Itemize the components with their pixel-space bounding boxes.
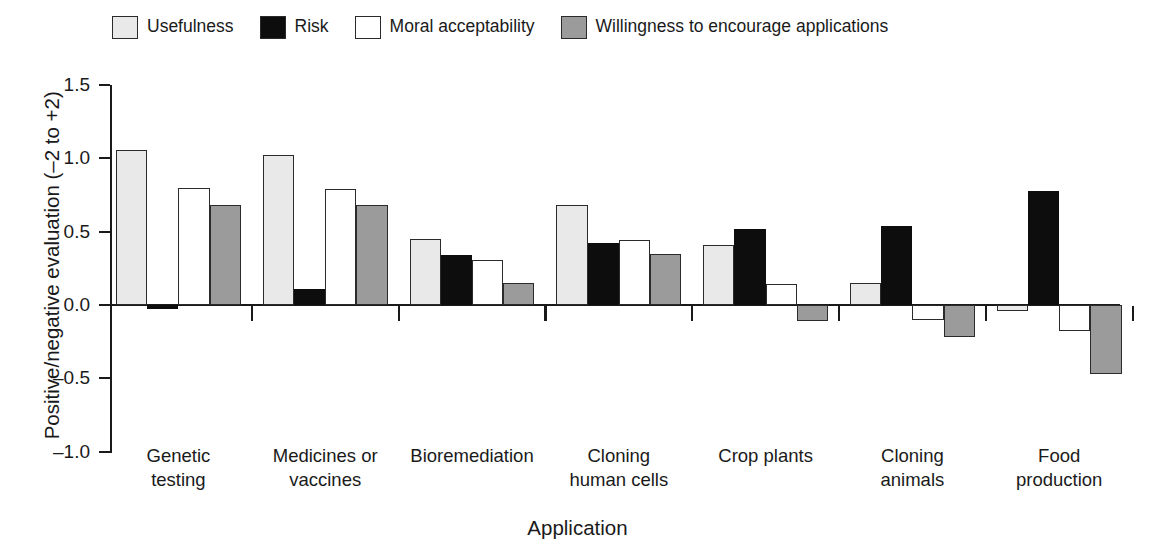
category-label-line: Food bbox=[974, 444, 1144, 468]
category-label-line: production bbox=[974, 468, 1144, 492]
y-axis-tick bbox=[99, 377, 110, 379]
bar[interactable] bbox=[147, 305, 178, 309]
bar[interactable] bbox=[178, 188, 209, 305]
x-axis-category-label: Cloninghuman cells bbox=[534, 444, 704, 491]
x-axis-category-label: Cloninganimals bbox=[827, 444, 997, 491]
bar[interactable] bbox=[556, 205, 587, 305]
plot-area: 1.51.00.50.0–0.5–1.0 GenetictestingMedic… bbox=[0, 0, 1155, 555]
bar[interactable] bbox=[116, 150, 147, 305]
x-axis-category-label: Medicines orvaccines bbox=[240, 444, 410, 491]
bar[interactable] bbox=[294, 289, 325, 305]
category-label-line: Bioremediation bbox=[387, 444, 557, 468]
bar[interactable] bbox=[356, 205, 387, 305]
category-label-line: human cells bbox=[534, 468, 704, 492]
y-axis-tick bbox=[99, 157, 110, 159]
category-label-line: testing bbox=[93, 468, 263, 492]
y-axis-title: Positive/negative evaluation (–2 to +2) bbox=[42, 65, 63, 465]
bar[interactable] bbox=[325, 189, 356, 305]
category-label-line: Crop plants bbox=[681, 444, 851, 468]
y-axis-tick bbox=[99, 84, 110, 86]
bar[interactable] bbox=[997, 305, 1028, 311]
y-axis-tick bbox=[99, 231, 110, 233]
bar[interactable] bbox=[797, 305, 828, 321]
x-axis-tick bbox=[985, 306, 987, 321]
x-axis-tick bbox=[251, 306, 253, 321]
x-axis-tick bbox=[1132, 306, 1134, 321]
bar[interactable] bbox=[703, 245, 734, 305]
bar[interactable] bbox=[650, 254, 681, 305]
x-axis-category-label: Crop plants bbox=[681, 444, 851, 468]
x-axis-title: Application bbox=[0, 518, 1155, 539]
x-axis-tick bbox=[398, 306, 400, 321]
bar[interactable] bbox=[1059, 305, 1090, 331]
bar[interactable] bbox=[441, 255, 472, 305]
y-axis-line bbox=[110, 85, 112, 453]
x-axis-category-label: Bioremediation bbox=[387, 444, 557, 468]
x-axis-category-label: Foodproduction bbox=[974, 444, 1144, 491]
y-axis-tick bbox=[99, 304, 110, 306]
bar[interactable] bbox=[503, 283, 534, 305]
category-label-line: vaccines bbox=[240, 468, 410, 492]
bar[interactable] bbox=[410, 239, 441, 305]
category-label-line: Cloning bbox=[534, 444, 704, 468]
category-label-line: Medicines or bbox=[240, 444, 410, 468]
category-label-line: Cloning bbox=[827, 444, 997, 468]
category-label-line: animals bbox=[827, 468, 997, 492]
bar[interactable] bbox=[588, 243, 619, 305]
x-axis-tick bbox=[838, 306, 840, 321]
bar[interactable] bbox=[850, 283, 881, 305]
bar[interactable] bbox=[263, 155, 294, 305]
bar[interactable] bbox=[734, 229, 765, 305]
bar[interactable] bbox=[1090, 305, 1121, 374]
chart-figure: UsefulnessRiskMoral acceptabilityWilling… bbox=[0, 0, 1155, 555]
bar[interactable] bbox=[766, 284, 797, 305]
bar[interactable] bbox=[881, 226, 912, 305]
x-axis-tick bbox=[544, 306, 546, 321]
category-label-line: Genetic bbox=[93, 444, 263, 468]
x-axis-tick bbox=[691, 306, 693, 321]
bar[interactable] bbox=[1028, 191, 1059, 305]
bar[interactable] bbox=[944, 305, 975, 337]
bar[interactable] bbox=[912, 305, 943, 320]
bar[interactable] bbox=[472, 260, 503, 305]
x-axis-category-label: Genetictesting bbox=[93, 444, 263, 491]
bar[interactable] bbox=[210, 205, 241, 305]
bar[interactable] bbox=[619, 240, 650, 305]
